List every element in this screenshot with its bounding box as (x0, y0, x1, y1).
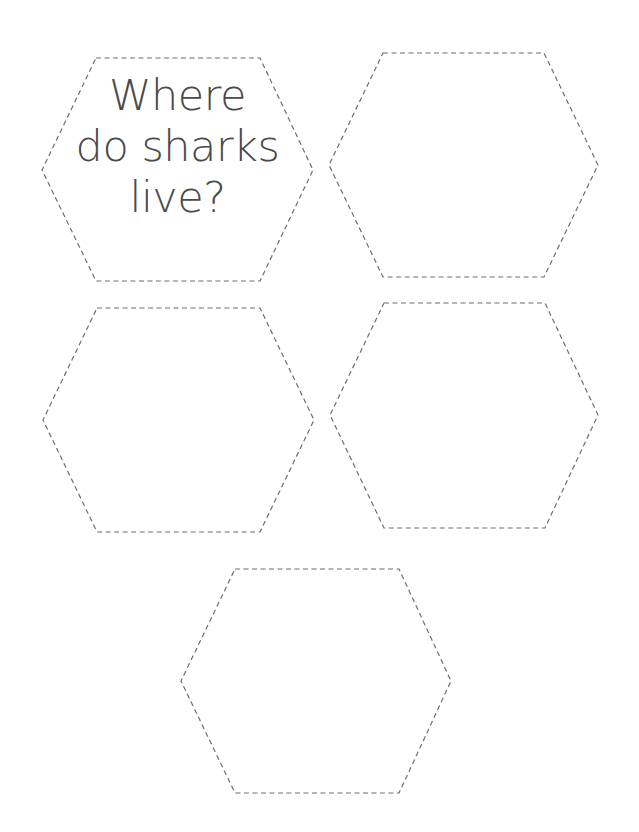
question-line-1: Where (42, 70, 313, 121)
hexagon-blank-4 (181, 569, 451, 793)
hexagon-blank-1 (329, 53, 598, 277)
question-line-3: live? (42, 172, 313, 223)
hexagon-blank-3 (330, 303, 598, 528)
question-text: Where do sharks live? (42, 70, 313, 223)
question-line-2: do sharks (42, 121, 313, 172)
hexagon-blank-2 (43, 308, 314, 532)
